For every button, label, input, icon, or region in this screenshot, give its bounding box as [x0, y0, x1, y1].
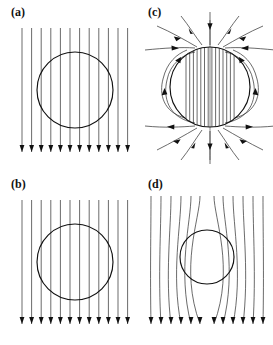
- panel-a-sphere: [37, 52, 113, 128]
- figure-root: (a): [0, 0, 273, 345]
- panel-d-sphere: [180, 230, 234, 284]
- panel-b-label: (b): [11, 178, 26, 190]
- panel-d-field-lines: [151, 196, 264, 324]
- panel-d-arrowheads: [149, 317, 266, 324]
- panel-a-field-lines: [22, 28, 128, 152]
- panel-b-arrowheads: [20, 317, 130, 324]
- panel-c: (c): [137, 0, 273, 172]
- panel-d: (d): [137, 172, 273, 344]
- panel-b-sphere: [37, 224, 113, 300]
- panel-d-label: (d): [148, 178, 163, 190]
- panel-d-diagram: [137, 172, 273, 344]
- panel-b: (b): [0, 172, 136, 344]
- panel-a-arrowheads: [20, 145, 130, 152]
- panel-b-field-lines: [22, 200, 128, 324]
- panel-b-diagram: [0, 172, 136, 344]
- panel-a: (a): [0, 0, 136, 172]
- panel-c-label: (c): [148, 6, 161, 18]
- panel-c-diagram: [137, 0, 273, 172]
- panel-c-top-fan: [145, 12, 273, 50]
- panel-a-diagram: [0, 0, 136, 172]
- panel-a-label: (a): [11, 6, 25, 18]
